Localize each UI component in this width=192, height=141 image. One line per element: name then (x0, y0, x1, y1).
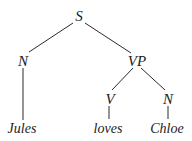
node-vp: VP (128, 54, 146, 69)
node-v: V (105, 92, 114, 107)
leaf-jules: Jules (8, 122, 37, 136)
edge-vp-n (141, 68, 165, 90)
leaf-chloe: Chloe (150, 122, 183, 136)
leaf-loves: loves (94, 122, 123, 136)
edge-vp-v (112, 68, 133, 90)
edge-s-vp (85, 23, 131, 53)
node-n-subject: N (18, 54, 28, 69)
node-n-object: N (163, 92, 173, 107)
tree-edges (0, 0, 192, 141)
edge-s-n (29, 23, 73, 52)
node-s: S (75, 9, 83, 24)
